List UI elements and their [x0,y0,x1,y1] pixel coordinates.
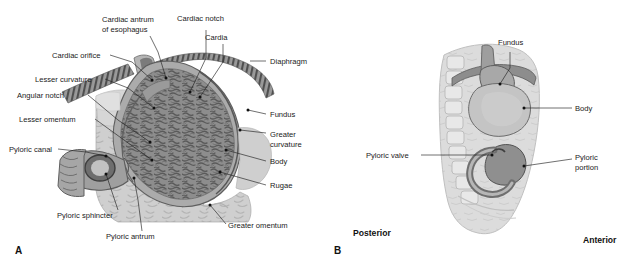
label-rugae: Rugae [270,181,292,190]
label-b-pyloric-portion-line1: Pyloric [575,153,598,162]
label-pyloric-sphincter: Pyloric sphincter [57,211,113,220]
panel-letter-a: A [15,245,22,256]
label-cardiac-antrum-of-esophagus-line1: Cardiac antrum [102,15,154,24]
label-fundus: Fundus [270,110,296,119]
panel-letter-b: B [334,245,341,256]
anatomy-figure: Cardiac antrum of esophagus Cardiac notc… [0,0,632,270]
label-cardiac-notch: Cardiac notch [177,14,224,23]
label-lesser-curvature: Lesser curvature [35,75,92,84]
orientation-posterior: Posterior [353,228,391,238]
label-body: Body [270,157,288,166]
label-cardiac-antrum-of-esophagus-line2: of esophagus [102,25,148,34]
label-cardia: Cardia [205,33,228,42]
label-greater-curvature-line1: Greater [270,130,296,139]
label-greater-omentum: Greater omentum [228,221,288,230]
label-lesser-omentum: Lesser omentum [19,115,76,124]
label-b-fundus: Fundus [498,38,524,47]
label-diaphragm: Diaphragm [270,57,307,66]
label-angular-notch: Angular notch [17,91,64,100]
label-b-pyloric-portion-line2: portion [575,163,598,172]
label-pyloric-canal: Pyloric canal [9,145,52,154]
abdominal-wall-fragment [96,92,120,111]
label-cardiac-orifice: Cardiac orifice [52,51,101,60]
label-b-body: Body [575,104,593,113]
label-b-pyloric-valve: Pyloric valve [366,151,409,160]
label-pyloric-antrum: Pyloric antrum [106,232,155,241]
label-greater-curvature-line2: curvature [270,140,302,149]
orientation-anterior: Anterior [583,235,617,245]
figure-canvas: Cardiac antrum of esophagus Cardiac notc… [0,0,632,270]
